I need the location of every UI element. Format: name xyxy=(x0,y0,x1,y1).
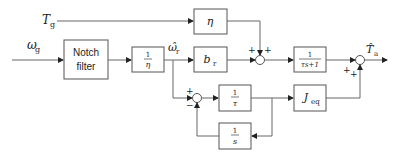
svg-text:b: b xyxy=(203,53,210,66)
svg-text:Notch: Notch xyxy=(73,47,99,58)
svg-text:s: s xyxy=(233,137,237,146)
wire-feedback-to-integrator xyxy=(252,98,272,136)
signal-label-omega-r-hat: ω̂ r xyxy=(168,41,180,56)
svg-text:filter: filter xyxy=(77,61,97,72)
input-label-tg: T g xyxy=(42,13,55,29)
svg-text:1: 1 xyxy=(233,127,237,135)
block-diagram: T g ω g Notch filter 1 η ω̂ r η b r xyxy=(0,0,397,159)
input-label-omega-g: ω g xyxy=(27,38,40,54)
svg-text:η: η xyxy=(146,60,151,69)
svg-text:τs+1: τs+1 xyxy=(301,61,319,69)
notch-filter-block: Notch filter xyxy=(64,40,108,79)
svg-text:g: g xyxy=(35,45,40,54)
jeq-block: J eq xyxy=(294,85,326,111)
inv-eta-block: 1 η xyxy=(132,47,164,72)
svg-text:r: r xyxy=(176,48,180,56)
svg-text:+: + xyxy=(248,45,256,55)
eta-block: η xyxy=(194,9,227,34)
svg-text:−: − xyxy=(186,100,194,110)
svg-text:τ: τ xyxy=(233,99,238,108)
svg-text:1: 1 xyxy=(146,51,150,59)
integrator-block: 1 s xyxy=(219,123,251,149)
inv-tau-block: 1 τ xyxy=(219,85,251,111)
svg-text:1: 1 xyxy=(308,51,312,59)
summing-junction-2: + + xyxy=(343,56,365,80)
br-block: b r xyxy=(194,47,227,72)
svg-text:a: a xyxy=(374,50,378,58)
svg-text:+: + xyxy=(350,69,358,79)
svg-text:g: g xyxy=(50,20,55,29)
output-label-ta-hat: T̂ a xyxy=(366,43,378,58)
svg-text:J: J xyxy=(302,91,309,104)
wire-integrator-to-sum3 xyxy=(197,103,219,136)
svg-text:+: + xyxy=(264,45,272,55)
svg-text:η: η xyxy=(207,15,214,28)
svg-text:+: + xyxy=(186,86,194,96)
svg-text:eq: eq xyxy=(311,98,320,106)
svg-text:1: 1 xyxy=(233,89,237,97)
lowpass-block: 1 τs+1 xyxy=(294,47,326,72)
